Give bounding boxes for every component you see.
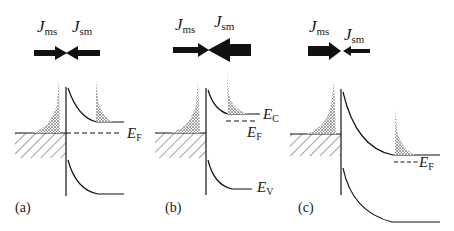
flux-arrows bbox=[173, 38, 251, 62]
fermi-label: EF bbox=[126, 125, 142, 143]
panel-label: (a) bbox=[15, 200, 31, 216]
fermi-label: EF bbox=[418, 154, 434, 172]
metal-filled-states bbox=[290, 134, 341, 156]
flux-label-ms: Jms bbox=[309, 17, 329, 37]
semiconductor-electron-distribution bbox=[395, 110, 415, 155]
fermi-label: EF bbox=[246, 124, 262, 142]
valence-band bbox=[343, 168, 440, 222]
panel-a: Jms Jsm EF (a) bbox=[15, 17, 142, 216]
conduction-label: EC bbox=[262, 106, 279, 124]
semiconductor-electron-distribution bbox=[96, 80, 113, 122]
flux-label-sm: Jsm bbox=[214, 12, 235, 32]
flux-label-ms: Jms bbox=[175, 15, 195, 35]
flux-label-ms: Jms bbox=[37, 17, 57, 37]
flux-label-sm: Jsm bbox=[72, 17, 93, 37]
valence-label: EV bbox=[256, 179, 274, 197]
metal-filled-states bbox=[155, 133, 206, 158]
flux-arrows bbox=[34, 46, 100, 60]
conduction-band bbox=[343, 92, 440, 155]
metal-filled-states bbox=[15, 133, 66, 158]
panel-label: (b) bbox=[165, 200, 182, 216]
valence-band bbox=[68, 160, 124, 194]
panel-c: Jms Jsm EF (c) bbox=[290, 17, 440, 222]
metal-electron-distribution bbox=[306, 82, 336, 134]
flux-label-sm: Jsm bbox=[344, 25, 365, 45]
metal-electron-distribution bbox=[32, 80, 60, 133]
valence-band bbox=[208, 160, 252, 189]
panel-b: Jms Jsm EC EF EV (b) bbox=[155, 12, 279, 216]
band-diagram-figure: Jms Jsm EF (a) Jms bbox=[0, 0, 454, 231]
panel-label: (c) bbox=[298, 200, 314, 216]
semiconductor-electron-distribution bbox=[227, 70, 248, 114]
metal-electron-distribution bbox=[170, 82, 200, 133]
